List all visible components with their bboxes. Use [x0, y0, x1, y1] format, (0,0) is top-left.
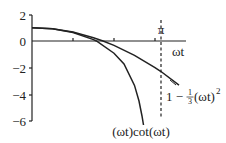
cot-curve — [32, 28, 144, 125]
parabola-label: 1 − 1 3 (ωt) 2 — [166, 86, 221, 106]
chart: 2 0 −2 −4 −6 ωt π 1 − 1 3 (ωt) 2 (ωt)cot… — [0, 0, 226, 143]
y-tick-label-minus-2: −2 — [12, 61, 26, 76]
y-axis — [29, 15, 32, 121]
parabola-label-den: 3 — [188, 97, 192, 106]
y-tick-label-0: 0 — [20, 34, 27, 49]
y-tick-label-minus-4: −4 — [12, 88, 26, 103]
y-tick-label-minus-6: −6 — [12, 114, 26, 129]
cot-label: (ωt)cot(ωt) — [112, 124, 170, 139]
parabola-label-tail: (ωt) — [194, 89, 215, 104]
y-tick-label-2: 2 — [20, 8, 27, 23]
parabola-label-num: 1 — [188, 88, 192, 97]
pi-label: π — [158, 22, 165, 37]
parabola-label-lead: 1 − — [166, 89, 183, 104]
x-axis-label: ωt — [172, 44, 185, 59]
x-axis — [32, 38, 186, 41]
parabola-label-sup: 2 — [216, 86, 221, 96]
